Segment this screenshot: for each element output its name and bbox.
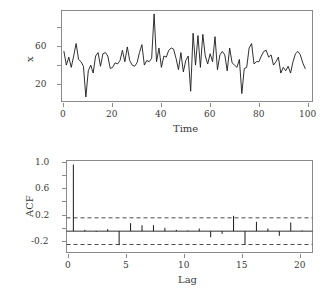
axis-title-x-variable: x bbox=[24, 56, 35, 62]
ytick-acf-04 bbox=[62, 201, 66, 202]
xtick-acf-5 bbox=[126, 254, 127, 258]
xtick-ts-60 bbox=[210, 103, 211, 107]
xtick-ts-80 bbox=[259, 103, 260, 107]
xtick-label-ts-0: 0 bbox=[60, 109, 66, 119]
xtick-label-acf-0: 0 bbox=[65, 260, 71, 270]
ytick-ts-40 bbox=[57, 65, 61, 66]
axis-title-lag: Lag bbox=[178, 274, 197, 285]
ytick-acf-08 bbox=[62, 175, 66, 176]
xtick-ts-40 bbox=[161, 103, 162, 107]
ytick-acf-000 bbox=[62, 228, 66, 229]
xtick-label-ts-1: 20 bbox=[106, 109, 117, 119]
xtick-acf-20 bbox=[300, 254, 301, 258]
ytick-ts-20 bbox=[57, 84, 61, 85]
axis-title-time: Time bbox=[173, 123, 198, 134]
xtick-acf-0 bbox=[68, 254, 69, 258]
ytick-acf-02 bbox=[62, 215, 66, 216]
time-series-line bbox=[0, 0, 328, 148]
xtick-label-acf-3: 15 bbox=[236, 260, 247, 270]
xtick-label-acf-4: 20 bbox=[294, 260, 305, 270]
ytick-label-acf-2: 0.6 bbox=[35, 183, 49, 193]
ytick-acf-n02 bbox=[62, 241, 66, 242]
ytick-label-ts-1: 60 bbox=[35, 41, 46, 51]
xtick-ts-20 bbox=[112, 103, 113, 107]
acf-panel: 1.0 0.6 0.2 -0.2 ACF 0 5 10 15 20 Lag bbox=[0, 148, 328, 297]
figure-container: 20 60 x 0 20 40 60 80 100 Time 1.0 0.6 0… bbox=[0, 0, 328, 297]
ytick-label-acf-1: 0.2 bbox=[35, 210, 49, 220]
xtick-label-ts-5: 100 bbox=[299, 109, 316, 119]
acf-spikes bbox=[0, 148, 328, 297]
xtick-label-acf-2: 10 bbox=[178, 260, 189, 270]
xtick-ts-100 bbox=[308, 103, 309, 107]
xtick-acf-15 bbox=[242, 254, 243, 258]
ytick-ts-80 bbox=[57, 27, 61, 28]
axis-title-acf: ACF bbox=[24, 195, 35, 217]
ytick-ts-60 bbox=[57, 46, 61, 47]
ytick-label-ts-0: 20 bbox=[35, 79, 46, 89]
ytick-acf-06 bbox=[62, 188, 66, 189]
time-series-panel: 20 60 x 0 20 40 60 80 100 Time bbox=[0, 0, 328, 148]
xtick-label-acf-1: 5 bbox=[123, 260, 129, 270]
xtick-label-ts-2: 40 bbox=[155, 109, 166, 119]
ytick-acf-10 bbox=[62, 162, 66, 163]
xtick-label-ts-4: 80 bbox=[253, 109, 264, 119]
ytick-label-acf-3: 1.0 bbox=[35, 157, 49, 167]
xtick-ts-0 bbox=[63, 103, 64, 107]
xtick-acf-10 bbox=[184, 254, 185, 258]
xtick-label-ts-3: 60 bbox=[204, 109, 215, 119]
ytick-label-acf-0: -0.2 bbox=[31, 236, 48, 246]
